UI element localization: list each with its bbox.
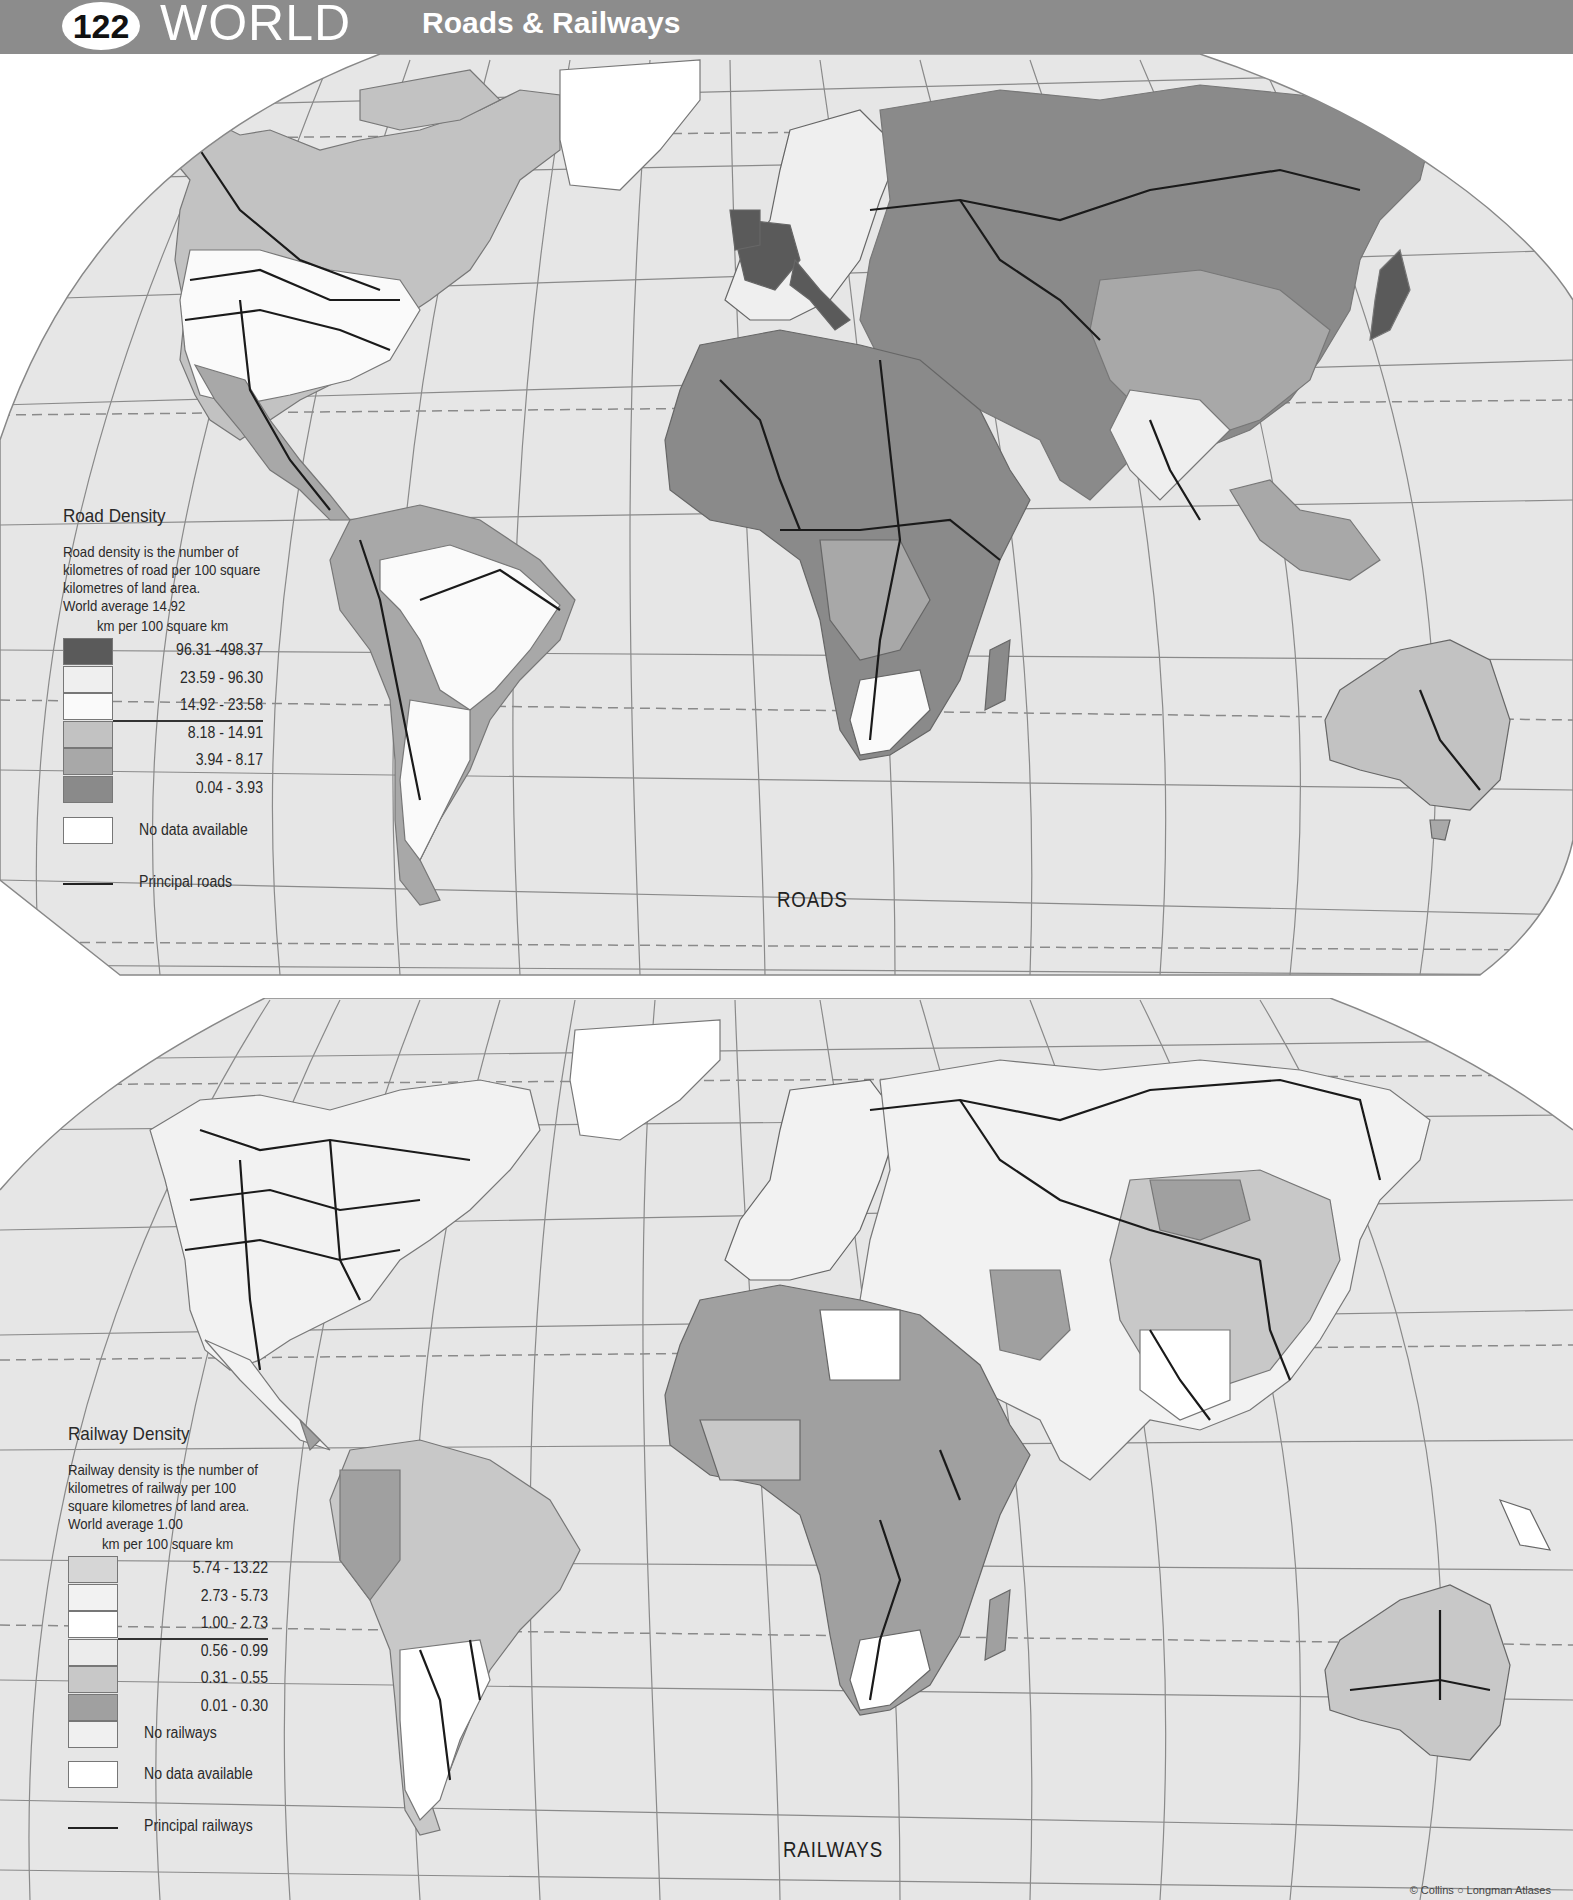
legend-world-average: World average 14.92 xyxy=(63,597,274,615)
railway-line-sample xyxy=(68,1827,118,1829)
publisher-credit: © Collins ○ Longman Atlases xyxy=(1410,1884,1551,1896)
legend-class: 5.74 - 13.22 xyxy=(68,1556,268,1584)
page-number-badge: 122 xyxy=(62,2,140,50)
legend-no-data: No data available xyxy=(68,1761,268,1789)
legend-class: 0.01 - 0.30 xyxy=(68,1694,268,1722)
legend-class: 23.59 - 96.30 xyxy=(63,666,263,694)
legend-range: 1.00 - 2.73 xyxy=(127,1614,268,1632)
legend-class: 3.94 - 8.17 xyxy=(63,748,263,776)
legend-swatch xyxy=(63,817,113,844)
legend-railways-label: Principal railways xyxy=(144,1817,253,1835)
legend-range: 0.31 - 0.55 xyxy=(127,1669,268,1687)
legend-swatch xyxy=(68,1761,118,1788)
legend-swatch xyxy=(68,1639,118,1666)
legend-class: 8.18 - 14.91 xyxy=(63,721,263,749)
legend-units: km per 100 square km xyxy=(102,1535,248,1552)
roads-map-label: ROADS xyxy=(777,887,848,913)
railway-density-legend: Railway Density Railway density is the n… xyxy=(68,1423,268,1841)
legend-class: 2.73 - 5.73 xyxy=(68,1584,268,1612)
legend-swatch xyxy=(68,1611,118,1638)
legend-swatch xyxy=(63,693,113,720)
legend-principal-railways: Principal railways xyxy=(68,1813,268,1841)
legend-no-data: No data available xyxy=(63,817,263,845)
legend-swatch xyxy=(63,721,113,748)
legend-world-average: World average 1.00 xyxy=(68,1515,279,1533)
legend-range: 0.04 - 3.93 xyxy=(122,779,263,797)
legend-description: Railway density is the number of kilomet… xyxy=(68,1461,279,1515)
legend-range: 0.56 - 0.99 xyxy=(127,1642,268,1660)
legend-class: 0.31 - 0.55 xyxy=(68,1666,268,1694)
legend-units: km per 100 square km xyxy=(97,617,243,634)
legend-range: 0.01 - 0.30 xyxy=(127,1697,268,1715)
legend-classes: 5.74 - 13.22 2.73 - 5.73 1.00 - 2.73 0.5… xyxy=(68,1556,268,1749)
legend-range: 2.73 - 5.73 xyxy=(127,1587,268,1605)
legend-description: Road density is the number of kilometres… xyxy=(63,543,274,597)
page-title: WORLD xyxy=(160,0,351,52)
legend-classes: 96.31 -498.37 23.59 - 96.30 14.92 - 23.5… xyxy=(63,638,263,803)
legend-no-railways-label: No railways xyxy=(144,1724,285,1742)
legend-swatch xyxy=(68,1694,118,1721)
legend-class: 14.92 - 23.58 xyxy=(63,693,263,721)
legend-range: 3.94 - 8.17 xyxy=(122,751,263,769)
page-subtitle: Roads & Railways xyxy=(422,6,680,40)
legend-class-no-railways: No railways xyxy=(68,1721,268,1749)
legend-range: 96.31 -498.37 xyxy=(122,641,263,659)
legend-range: 5.74 - 13.22 xyxy=(127,1559,268,1577)
legend-swatch xyxy=(63,748,113,775)
legend-class: 0.04 - 3.93 xyxy=(63,776,263,804)
legend-title: Road Density xyxy=(63,505,243,527)
legend-range: 14.92 - 23.58 xyxy=(122,696,263,714)
road-line-sample xyxy=(63,883,113,885)
legend-swatch xyxy=(63,666,113,693)
road-density-legend: Road Density Road density is the number … xyxy=(63,505,263,897)
legend-range: 8.18 - 14.91 xyxy=(122,724,263,742)
legend-class: 96.31 -498.37 xyxy=(63,638,263,666)
legend-no-data-label: No data available xyxy=(144,1765,253,1783)
legend-principal-roads: Principal roads xyxy=(63,869,263,897)
legend-swatch xyxy=(63,638,113,665)
legend-roads-label: Principal roads xyxy=(139,873,232,891)
legend-class: 1.00 - 2.73 xyxy=(68,1611,268,1639)
legend-title: Railway Density xyxy=(68,1423,248,1445)
legend-swatch xyxy=(63,776,113,803)
page-header: 122 WORLD Roads & Railways xyxy=(0,0,1573,54)
railways-map-label: RAILWAYS xyxy=(783,1837,883,1863)
legend-range: 23.59 - 96.30 xyxy=(122,669,263,687)
legend-swatch xyxy=(68,1666,118,1693)
legend-no-data-label: No data available xyxy=(139,821,248,839)
legend-class: 0.56 - 0.99 xyxy=(68,1639,268,1667)
legend-swatch xyxy=(68,1721,118,1748)
legend-swatch xyxy=(68,1556,118,1583)
legend-swatch xyxy=(68,1584,118,1611)
